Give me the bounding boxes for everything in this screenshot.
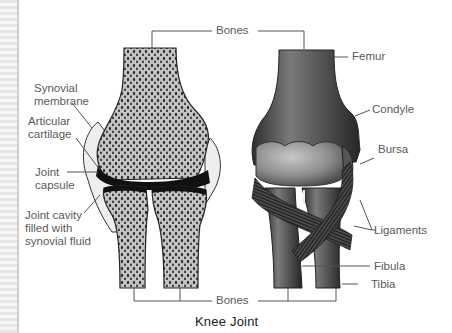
figure-title: Knee Joint xyxy=(195,314,258,329)
label-femur: Femur xyxy=(352,50,385,63)
label-bones-top: Bones xyxy=(216,24,249,37)
exterior-view xyxy=(252,50,360,288)
condyle-shape xyxy=(256,142,346,187)
tibia-cross-section xyxy=(103,186,148,288)
label-bursa: Bursa xyxy=(378,143,408,156)
label-joint-capsule: Joint capsule xyxy=(35,166,75,192)
fibula-cross-section xyxy=(152,186,207,288)
label-fibula: Fibula xyxy=(374,260,405,273)
label-ligaments: Ligaments xyxy=(374,224,427,237)
cross-section-view xyxy=(83,48,220,288)
label-synovial-membrane: Synovial membrane xyxy=(34,82,89,108)
label-articular-cartilage: Articular cartilage xyxy=(28,115,71,141)
label-bones-bottom: Bones xyxy=(216,294,249,307)
label-condyle: Condyle xyxy=(372,103,414,116)
label-tibia: Tibia xyxy=(371,278,396,291)
label-joint-cavity: Joint cavity filled with synovial fluid xyxy=(25,209,91,248)
femur-cross-section xyxy=(97,48,208,180)
